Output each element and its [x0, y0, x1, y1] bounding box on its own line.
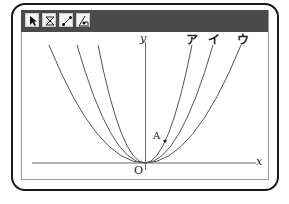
- point-a: [163, 139, 166, 142]
- point-a-label: A: [153, 131, 160, 141]
- graph-canvas: [0, 0, 289, 204]
- curve-i-label: イ: [208, 34, 220, 46]
- y-axis-label: y: [140, 33, 146, 44]
- curve-a-label: ア: [186, 34, 198, 46]
- x-axis-label: x: [256, 156, 262, 167]
- curve-u-label: ウ: [237, 34, 249, 46]
- origin-label: O: [134, 165, 143, 176]
